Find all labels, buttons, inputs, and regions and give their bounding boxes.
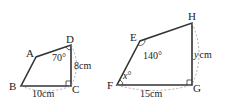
angle-f-label: x° — [122, 70, 131, 81]
angle-f-deg: ° — [127, 70, 131, 81]
angle-e-label: 140° — [143, 50, 162, 61]
side-dc-label: 8cm — [74, 60, 91, 71]
label-f: F — [107, 79, 113, 91]
figure-efgh: E F G H 140° x° ycm 15cm — [107, 10, 212, 99]
label-h: H — [188, 10, 196, 22]
side-hg-var: y — [193, 49, 199, 60]
label-d: D — [66, 33, 74, 45]
label-b: B — [9, 80, 16, 92]
label-g: G — [193, 82, 201, 94]
label-c: C — [72, 83, 79, 95]
side-fg-label: 15cm — [140, 88, 162, 99]
angle-d-label: 70° — [52, 52, 66, 63]
side-hg-label: ycm — [193, 49, 212, 60]
geometry-diagram: A B C D 70° 8cm 10cm E F G H 140° x° ycm… — [0, 0, 227, 109]
label-a: A — [26, 47, 34, 59]
figure-abcd: A B C D 70° 8cm 10cm — [9, 33, 91, 99]
side-hg-unit: cm — [199, 49, 211, 60]
side-bc-label: 10cm — [32, 88, 54, 99]
label-e: E — [130, 31, 137, 43]
